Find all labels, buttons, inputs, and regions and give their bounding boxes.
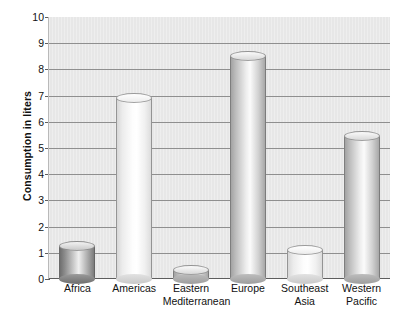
gridline (49, 17, 390, 18)
bar-column (106, 92, 163, 279)
y-axis-tick-label: 6 (22, 117, 44, 128)
bar-cylinder (116, 93, 152, 279)
y-axis-tick-label: 10 (22, 12, 44, 23)
y-axis-tick-label: 7 (22, 91, 44, 102)
bar-cylinder-bottom (287, 274, 323, 284)
bar-column (276, 244, 333, 279)
bar-cylinder (344, 131, 380, 279)
bar-column (49, 240, 106, 279)
bar-cylinder-bottom (173, 274, 209, 284)
x-axis-category-label-line: Pacific (333, 295, 390, 308)
y-axis-tick-label: 9 (22, 38, 44, 49)
bar-column (333, 130, 390, 279)
bar-chart: Consumption in liters 012345678910 Afric… (0, 0, 403, 322)
bar-cylinder-body (116, 98, 152, 279)
gridline (49, 43, 390, 44)
y-axis-tick-label: 0 (22, 274, 44, 285)
y-axis-tick-mark (45, 279, 50, 280)
x-axis-category-label-line: Mediterranean (163, 295, 220, 308)
bar-column (163, 264, 220, 279)
bar-cylinder-bottom (344, 274, 380, 284)
y-axis-line (48, 17, 49, 279)
bar-cylinder-top (173, 265, 209, 275)
y-axis-tick-label: 2 (22, 222, 44, 233)
x-axis-line (49, 278, 390, 279)
x-axis-category-label: EasternMediterranean (163, 282, 220, 308)
bar-cylinder-body (344, 136, 380, 279)
x-axis-category-label: WesternPacific (333, 282, 390, 308)
bar-cylinder (59, 241, 95, 279)
bar-cylinder-bottom (116, 274, 152, 284)
y-axis-tick-label: 5 (22, 143, 44, 154)
x-axis-category-label-line: Asia (276, 295, 333, 308)
plot-area (49, 17, 390, 279)
bar-cylinder (287, 245, 323, 279)
bar-column (220, 50, 277, 279)
bar-cylinder (173, 265, 209, 279)
bar-cylinder (230, 51, 266, 279)
y-axis-tick-labels: 012345678910 (22, 0, 44, 322)
bar-cylinder-body (230, 56, 266, 279)
y-axis-tick-label: 1 (22, 248, 44, 259)
x-axis-category-label: SoutheastAsia (276, 282, 333, 308)
x-axis-category-labels: AfricaAmericasEasternMediterraneanEurope… (49, 282, 390, 322)
y-axis-tick-label: 3 (22, 195, 44, 206)
y-axis-tick-label: 4 (22, 169, 44, 180)
bar-cylinder-bottom (230, 274, 266, 284)
y-axis-tick-label: 8 (22, 64, 44, 75)
